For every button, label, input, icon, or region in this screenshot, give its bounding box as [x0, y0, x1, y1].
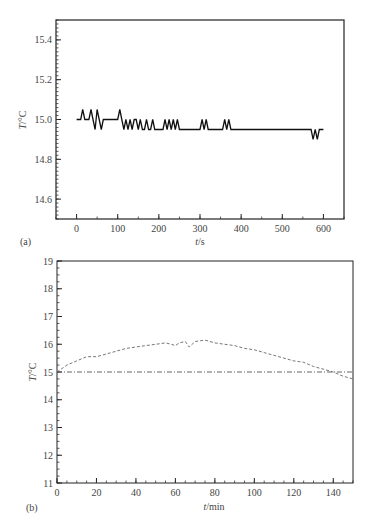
chart-a-x-tick-label: 400 [234, 223, 249, 234]
chart-a-x-tick-label: 0 [74, 223, 79, 234]
chart-b-y-tick-label: 17 [43, 311, 53, 322]
chart-a-x-axis: 0100200300400500600 [56, 214, 344, 234]
chart-b-x-tick-label: 20 [91, 487, 101, 498]
chart-b-x-tick-label: 120 [286, 487, 301, 498]
chart-b-x-axis: 020406080100120140 [55, 478, 354, 498]
chart-a-y-tick-label: 15.2 [35, 74, 53, 85]
chart-a: 14.614.815.015.215.4 0100200300400500600… [17, 20, 344, 248]
chart-a-y-tick-label: 14.8 [35, 154, 53, 165]
chart-a-y-tick-label: 15.4 [35, 34, 53, 45]
chart-b-measured-line [57, 340, 353, 379]
chart-a-x-label: t/s [195, 236, 205, 247]
chart-b-y-label: T/°C [27, 362, 38, 381]
chart-b-x-tick-label: 100 [247, 487, 262, 498]
chart-a-y-tick-label: 15.0 [35, 114, 53, 125]
chart-b-y-tick-label: 14 [43, 394, 53, 405]
chart-b-y-tick-label: 12 [43, 450, 53, 461]
chart-b-x-tick-label: 80 [210, 487, 220, 498]
chart-a-x-tick-label: 200 [151, 223, 166, 234]
chart-b-y-tick-label: 15 [43, 367, 53, 378]
chart-b-x-tick-label: 60 [170, 487, 180, 498]
chart-b-y-tick-label: 16 [43, 339, 53, 350]
chart-a-x-tick-label: 100 [110, 223, 125, 234]
chart-b: 111213141516171819 020406080100120140 T/… [26, 256, 353, 515]
chart-b-x-tick-label: 0 [55, 487, 60, 498]
chart-b-y-tick-label: 13 [43, 422, 53, 433]
chart-a-y-tick-label: 14.6 [35, 194, 53, 205]
chart-a-series-line [77, 110, 324, 140]
chart-b-y-tick-label: 18 [43, 283, 53, 294]
chart-a-x-tick-label: 500 [275, 223, 290, 234]
chart-b-x-label: t/min [203, 501, 224, 512]
chart-a-y-label: T/°C [17, 110, 28, 129]
panel-label-a: (a) [20, 236, 31, 248]
figure: 14.614.815.015.215.4 0100200300400500600… [0, 0, 368, 528]
chart-a-x-tick-label: 300 [193, 223, 208, 234]
chart-b-x-tick-label: 40 [131, 487, 141, 498]
chart-a-y-axis: 14.614.815.015.215.4 [35, 20, 62, 219]
panel-label-b: (b) [26, 502, 38, 514]
chart-b-y-tick-label: 19 [43, 256, 53, 267]
chart-a-x-tick-label: 600 [316, 223, 331, 234]
chart-b-y-tick-label: 11 [43, 478, 53, 489]
chart-b-x-tick-label: 140 [326, 487, 341, 498]
